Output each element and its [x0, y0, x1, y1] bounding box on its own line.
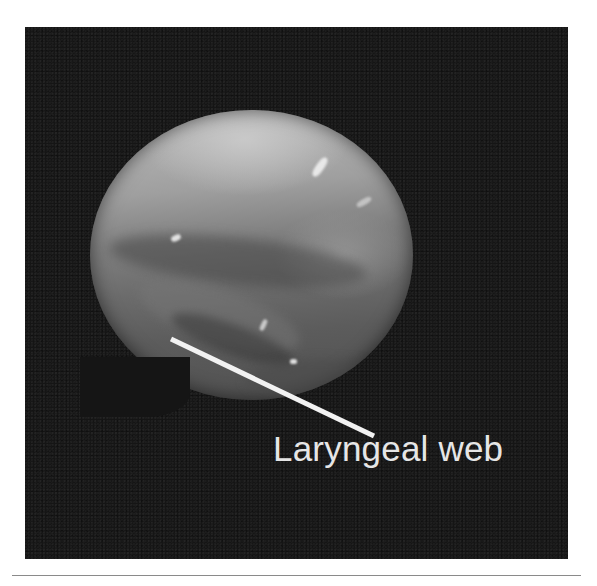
field-of-view-edge: [80, 357, 190, 417]
specular-highlight: [311, 156, 330, 179]
annotation-label: Laryngeal web: [273, 431, 503, 466]
endoscopic-photo: [25, 27, 568, 559]
tissue-shadow-lower: [245, 359, 394, 400]
caption-divider: [12, 575, 581, 576]
specular-highlight: [356, 195, 373, 208]
